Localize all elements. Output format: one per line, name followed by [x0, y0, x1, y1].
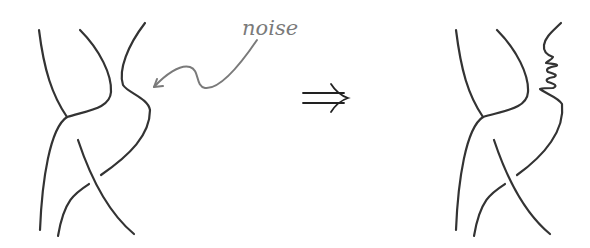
- noise-label: noise: [242, 16, 298, 40]
- implies-arrow-icon: [303, 84, 348, 112]
- right-tangle: [456, 23, 562, 236]
- left-strand-a: [39, 30, 67, 117]
- diagram-canvas: noise: [0, 0, 590, 248]
- left-tangle: [39, 23, 150, 236]
- noise-annotation: noise: [154, 16, 298, 88]
- right-strand-e: [474, 184, 505, 236]
- right-strand-a: [456, 30, 483, 117]
- left-strand-b: [40, 30, 111, 230]
- left-strand-e: [58, 184, 89, 236]
- noise-squiggle-arrow: [154, 40, 257, 88]
- right-strand-b: [456, 30, 528, 230]
- right-strand-c-noisy: [517, 23, 562, 175]
